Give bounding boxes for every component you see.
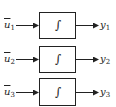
integral-symbol-1: ∫: [40, 19, 76, 31]
output-label-2: y2: [100, 54, 110, 67]
input-label-3: u3: [4, 87, 15, 100]
input-label-1: u1: [4, 20, 15, 33]
integral-symbol-3: ∫: [40, 86, 76, 98]
integral-symbol-2: ∫: [40, 53, 76, 65]
output-label-3: y3: [100, 87, 110, 100]
input-label-2: u2: [4, 54, 15, 67]
output-label-1: y1: [100, 20, 110, 33]
